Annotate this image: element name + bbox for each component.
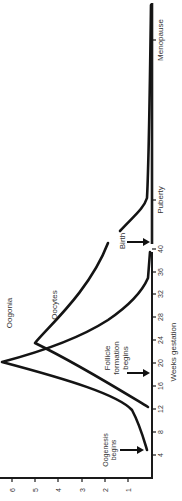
x-tick-16: 16: [157, 382, 164, 390]
oogenesis-annotation: Oogenesis begins: [102, 433, 144, 467]
birth-label: Birth: [118, 233, 127, 249]
oocytes-curve-gestation: [35, 243, 148, 407]
x-tick-puberty: Puberty: [156, 186, 165, 214]
follicle-label-line3: begins: [121, 346, 130, 370]
y-tick-4: 4: [55, 488, 62, 492]
oogonia-label: Oogonia: [5, 297, 14, 328]
gestation-axis-tick-labels: 4 8 12 16 20 24 28 32 36 40 Puberty Meno…: [156, 19, 178, 457]
y-tick-3: 3: [79, 488, 86, 492]
follicle-annotation: Follicle formation begins: [103, 341, 150, 377]
x-tick-menopause: Menopause: [156, 19, 165, 61]
y-tick-2: 2: [102, 488, 109, 492]
oogenesis-label-line2: begins: [110, 439, 118, 460]
oogenesis-chart: 1 2 3 4 5 6 4 8 12 16 20 24 28 32 36 40 …: [0, 0, 182, 501]
y-tick-1: 1: [125, 488, 132, 492]
oocytes-curve-postnatal: [120, 5, 151, 231]
value-axis-tick-labels: 1 2 3 4 5 6: [9, 488, 132, 492]
x-tick-28: 28: [157, 313, 164, 321]
x-tick-4: 4: [157, 453, 164, 457]
x-tick-32: 32: [157, 290, 164, 298]
y-tick-6: 6: [9, 488, 16, 492]
x-tick-24: 24: [157, 336, 164, 344]
x-tick-36: 36: [157, 268, 164, 276]
y-tick-5: 5: [32, 488, 39, 492]
follicle-arrowhead: [143, 369, 150, 377]
birth-arrowhead: [143, 238, 150, 246]
follicle-label-line2: formation: [112, 341, 121, 374]
x-axis-title: Weeks gestation: [169, 323, 178, 382]
follicle-label-line1: Follicle: [103, 345, 112, 370]
birth-annotation: Birth: [118, 233, 150, 249]
oogenesis-label-line1: Oogenesis: [102, 433, 110, 467]
x-tick-40: 40: [157, 245, 164, 253]
oogenesis-arrowhead: [137, 446, 144, 454]
x-tick-20: 20: [157, 359, 164, 367]
oocytes-label: Oocytes: [50, 290, 59, 319]
x-tick-8: 8: [157, 430, 164, 434]
x-tick-12: 12: [157, 405, 164, 413]
